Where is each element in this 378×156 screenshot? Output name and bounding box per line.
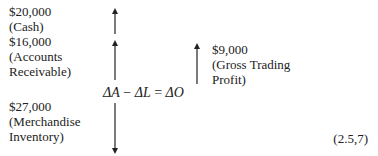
- cash-up-arrow-icon: [112, 8, 118, 34]
- inventory-down-arrow-icon: [112, 103, 118, 154]
- profit-up-arrow-icon: [194, 43, 200, 84]
- arrows: [0, 0, 378, 156]
- receivable-up-arrow-icon: [112, 40, 118, 80]
